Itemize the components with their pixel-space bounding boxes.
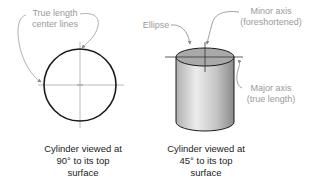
callout-ellipse-text: Ellipse (140, 20, 172, 31)
caption-line-2: 45° to its top (151, 155, 261, 167)
leader-minor-axis (207, 12, 239, 45)
cylinder-figure (165, 12, 243, 132)
callout-minor-axis: Minor axis (foreshortened) (236, 6, 306, 28)
callout-major-line-1: Major axis (240, 83, 302, 94)
leader-ellipse (171, 25, 190, 44)
callout-minor-line-2: (foreshortened) (236, 17, 306, 28)
caption-line-2: 90° to its top (28, 155, 138, 167)
caption-top-view: Cylinder viewed at 90° to its top surfac… (28, 143, 138, 179)
callout-true-length-center-lines: True length center lines (28, 8, 82, 30)
caption-line-3: surface (28, 167, 138, 179)
callout-minor-line-1: Minor axis (236, 6, 306, 17)
callout-ellipse: Ellipse (140, 20, 172, 31)
callout-major-axis: Major axis (true length) (240, 83, 302, 105)
caption-cylinder-view: Cylinder viewed at 45° to its top surfac… (151, 143, 261, 179)
caption-line-3: surface (151, 167, 261, 179)
callout-major-line-2: (true length) (240, 94, 302, 105)
callout-line-1: True length (28, 8, 82, 19)
leader-right (80, 14, 98, 49)
caption-line-1: Cylinder viewed at (28, 143, 138, 155)
top-view-figure (18, 14, 124, 129)
caption-line-1: Cylinder viewed at (151, 143, 261, 155)
callout-line-2: center lines (28, 19, 82, 30)
